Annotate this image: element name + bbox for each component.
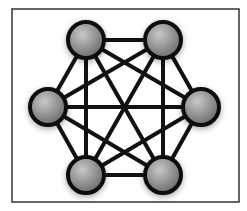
edges-layer: [48, 40, 201, 175]
node-n6: [30, 89, 66, 125]
node-n3: [183, 89, 219, 125]
node-n5: [68, 157, 104, 193]
mesh-graph-canvas: [0, 0, 247, 211]
network-diagram: [0, 0, 247, 211]
node-n1: [68, 22, 104, 58]
node-n2: [145, 22, 181, 58]
node-n4: [145, 157, 181, 193]
